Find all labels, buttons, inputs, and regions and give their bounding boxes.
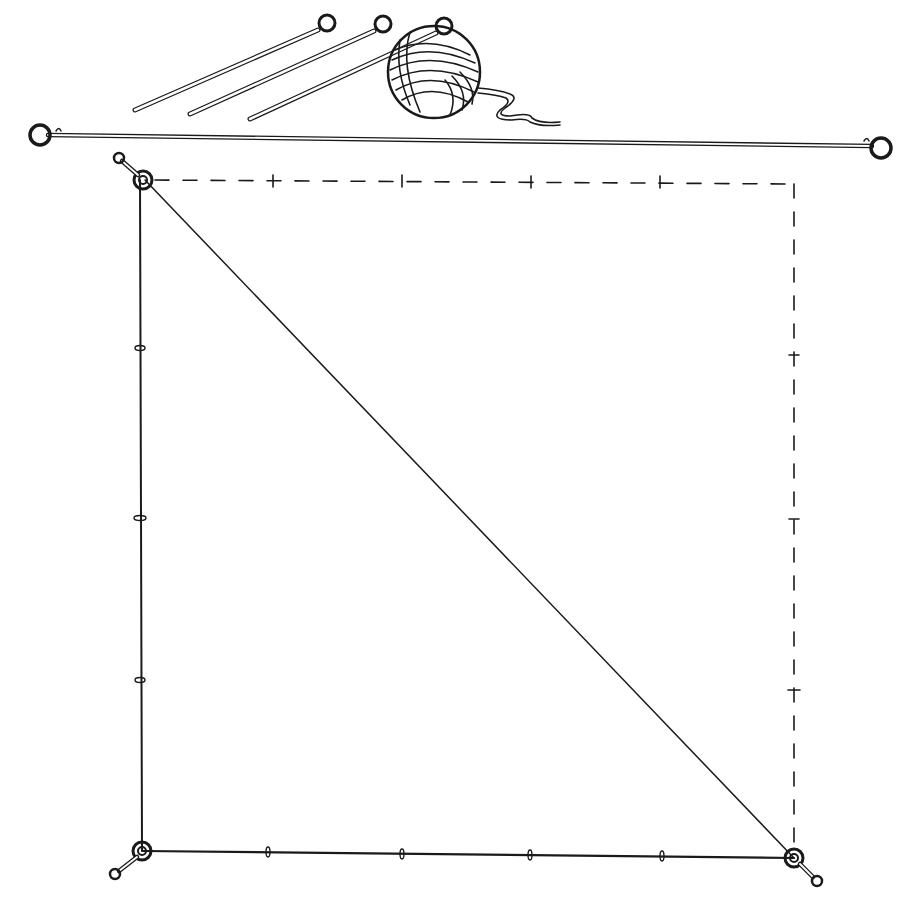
dashed-square [155,175,800,850]
ring-icon [871,138,891,158]
corner-stake-bottom-left [110,842,151,879]
measuring-cord [30,125,891,158]
triangle-illustration [0,0,916,908]
rope-triangle [140,180,794,858]
corner-stake-top-left [114,153,152,189]
stake-icon [250,18,452,119]
corner-stake-bottom-right [785,849,822,886]
